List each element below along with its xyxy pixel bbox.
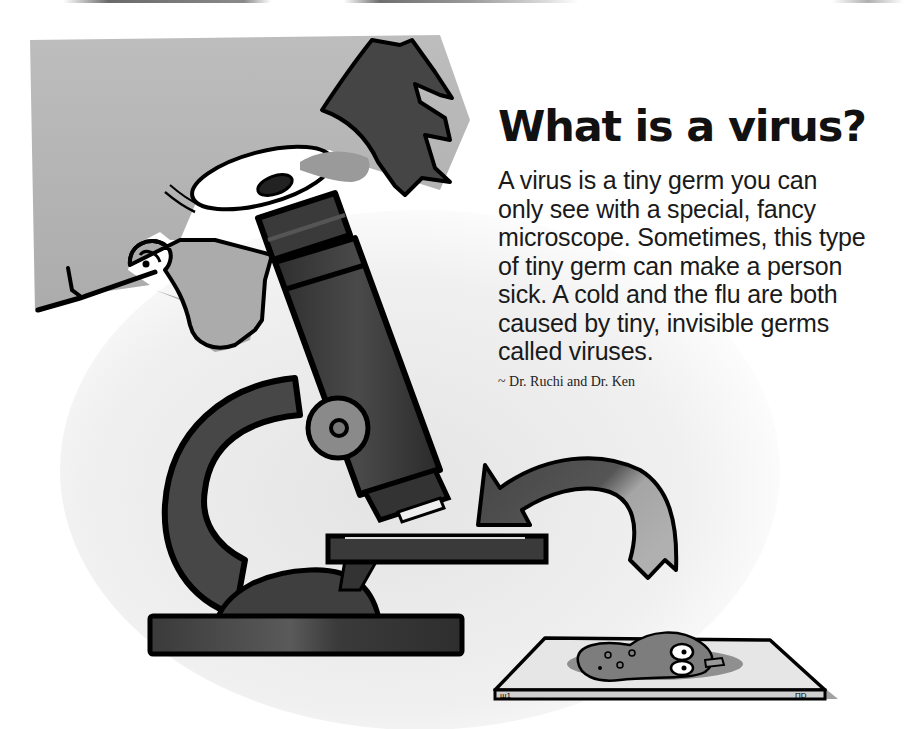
svg-text:ш1: ш1 [500,691,511,700]
body-line: microscope. Sometimes, this type [498,223,898,252]
body-paragraph: A virus is a tiny germ you can only see … [498,166,898,366]
body-line: called viruses. [498,337,898,366]
body-line: caused by tiny, invisible germs [498,309,898,338]
headline: What is a virus? [498,100,898,152]
page: ш1 ПD What is a virus? A virus is a tiny… [0,0,904,729]
body-line: only see with a special, fancy [498,195,898,224]
body-line: of tiny germ can make a person [498,252,898,281]
svg-text:ПD: ПD [795,691,807,700]
slide-with-germ: ш1 ПD [495,633,838,700]
text-block: What is a virus? A virus is a tiny germ … [498,100,898,390]
body-line: A virus is a tiny germ you can [498,166,898,195]
body-line: sick. A cold and the flu are both [498,280,898,309]
attribution: ~ Dr. Ruchi and Dr. Ken [498,374,898,390]
